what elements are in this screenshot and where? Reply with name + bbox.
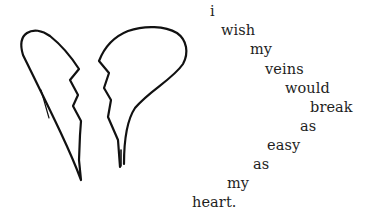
poem-word-easy: easy <box>267 138 300 153</box>
poem-word-my: my <box>250 42 272 57</box>
poem-word-veins: veins <box>265 62 304 77</box>
poem-word-break: break <box>310 100 353 115</box>
poem-word-heart: heart. <box>192 195 237 210</box>
poem-word-i: i <box>210 4 215 19</box>
poem: i wish my veins would break as easy as m… <box>0 0 374 223</box>
poem-word-as-2: as <box>253 157 269 172</box>
poem-word-as: as <box>300 119 316 134</box>
poem-word-would: would <box>285 81 330 96</box>
poem-word-wish: wish <box>221 23 255 38</box>
poem-word-my-2: my <box>227 176 249 191</box>
